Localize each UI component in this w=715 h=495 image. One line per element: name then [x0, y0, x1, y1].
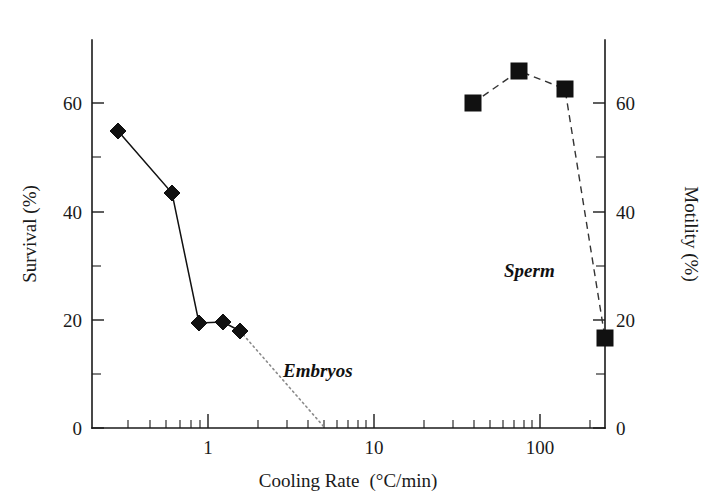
y-right-tick-label-20: 20: [616, 310, 635, 331]
annotation-sperm: Sperm: [504, 260, 555, 281]
y-axis-right-ticks: [593, 103, 605, 428]
data-point-marker: [232, 323, 248, 339]
x-axis-title-units: (°C/min): [370, 470, 438, 492]
y-tick-label-40: 40: [63, 202, 82, 223]
data-point-marker: [557, 81, 573, 97]
data-point-marker: [191, 315, 207, 331]
y-axis-right-tick-labels: 0 20 40 60: [616, 93, 635, 439]
x-axis-title-main: Cooling Rate: [259, 470, 360, 491]
x-axis-tick-labels: 1 10 100: [203, 437, 554, 458]
data-point-marker: [511, 63, 527, 79]
embryos-line: [118, 131, 240, 331]
x-tick-label-100: 100: [526, 437, 555, 458]
x-tick-label-1: 1: [203, 437, 213, 458]
y-axis-left-ticks: [92, 103, 104, 428]
y-tick-label-20: 20: [63, 310, 82, 331]
sperm-line: [473, 71, 605, 338]
chart-plot-area: 0 20 40 60 0 20 40 60 1 10 100 Cooling R…: [0, 0, 715, 495]
x-axis-title: Cooling Rate(°C/min): [259, 470, 438, 492]
y-right-tick-label-0: 0: [616, 418, 626, 439]
y-axis-title-right: Motility (%): [680, 186, 702, 282]
embryos-markers: [110, 123, 248, 339]
y-tick-label-0: 0: [73, 418, 83, 439]
series-sperm: [465, 63, 613, 346]
data-point-marker: [465, 95, 481, 111]
y-axis-left-tick-labels: 0 20 40 60: [63, 93, 82, 439]
x-axis-ticks: [128, 414, 590, 428]
x-tick-label-10: 10: [365, 437, 384, 458]
chart-figure: 0 20 40 60 0 20 40 60 1 10 100 Cooling R…: [0, 0, 715, 495]
y-right-tick-label-60: 60: [616, 93, 635, 114]
y-axis-title-left: Survival (%): [19, 185, 41, 283]
data-point-marker: [597, 330, 613, 346]
y-tick-label-60: 60: [63, 93, 82, 114]
series-embryos: [110, 123, 325, 428]
y-right-tick-label-40: 40: [616, 202, 635, 223]
sperm-markers: [465, 63, 613, 346]
annotation-embryos: Embryos: [282, 360, 353, 381]
data-point-marker: [215, 314, 231, 330]
